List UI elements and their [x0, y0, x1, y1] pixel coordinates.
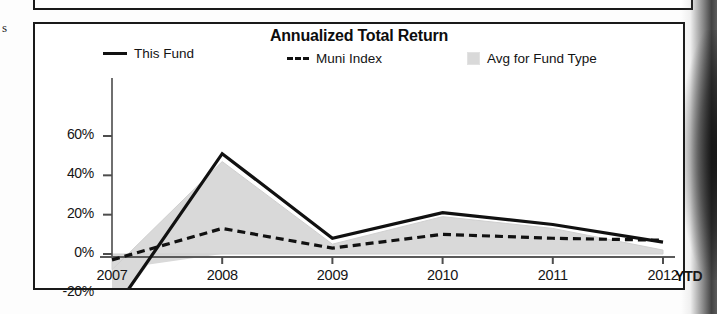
partial-box-above: [33, 0, 693, 10]
plot-svg: [35, 24, 683, 288]
x-axis-ytd-label: YTD: [675, 268, 702, 284]
scan-background: s Annualized Total Return This Fund Muni…: [0, 0, 717, 314]
x-axis-label: 2008: [195, 267, 249, 283]
x-axis-label: 2010: [416, 267, 470, 283]
y-axis-label: -20%: [36, 283, 94, 299]
plot-area: 60%40%20%0%-20%200720082009201020112012Y…: [35, 24, 683, 288]
y-axis-label: 60%: [36, 126, 94, 142]
x-axis-label: 2011: [526, 267, 580, 283]
y-axis-label: 0%: [36, 244, 94, 260]
x-axis-label: 2007: [85, 267, 139, 283]
x-axis-label: 2009: [305, 267, 359, 283]
y-axis-label: 40%: [36, 165, 94, 181]
chart-container: Annualized Total Return This Fund Muni I…: [33, 22, 685, 290]
area-avg-for-fund-type: [112, 162, 663, 270]
scan-edge-shadow-core: [683, 30, 717, 280]
stray-text-fragment: s: [2, 20, 7, 36]
y-axis-label: 20%: [36, 205, 94, 221]
